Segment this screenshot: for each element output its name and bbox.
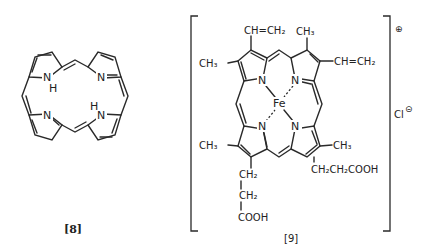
compound-8-caption: [8]: [64, 223, 82, 236]
vinyl-group-label: CH=CH₂: [334, 56, 375, 67]
porphine-structure: N H N N N H: [22, 52, 128, 140]
positive-charge-symbol: ⊕: [395, 24, 403, 34]
compound-9-caption: [9]: [284, 233, 298, 244]
nitrogen-atom: N: [97, 71, 105, 84]
propionic-chain-label: CH₂CH₂COOH: [311, 164, 378, 175]
methyl-group-label: CH₃: [199, 140, 218, 151]
methyl-group-label: CH₃: [296, 26, 315, 37]
nitrogen-atom: N: [291, 74, 299, 87]
chemical-structures-figure: N H N N N H [8]: [0, 0, 430, 252]
hydrogen-atom: H: [49, 82, 57, 95]
hemin-structure: N N N N Fe CH=CH₂ CH₃ CH₃ CH=CH₂ CH₃ CH₂…: [199, 25, 378, 223]
right-bracket: [383, 16, 390, 231]
nitrogen-atom: N: [291, 120, 299, 133]
vinyl-group-label: CH=CH₂: [244, 25, 285, 36]
hydrogen-atom: H: [90, 100, 98, 113]
carboxyl-group-label: COOH: [238, 212, 268, 223]
methylene-group-label: CH₂: [239, 190, 258, 201]
methyl-group-label: CH₃: [199, 58, 218, 69]
nitrogen-atom: N: [258, 120, 266, 133]
methylene-group-label: CH₂: [239, 169, 258, 180]
left-bracket: [191, 16, 198, 231]
nitrogen-atom: N: [258, 74, 266, 87]
iron-atom: Fe: [273, 97, 286, 110]
methyl-group-label: CH₃: [333, 140, 352, 151]
nitrogen-atom: N: [43, 109, 51, 122]
negative-charge-symbol: ⊝: [405, 104, 413, 114]
chloride-ion-label: Cl: [394, 109, 404, 120]
